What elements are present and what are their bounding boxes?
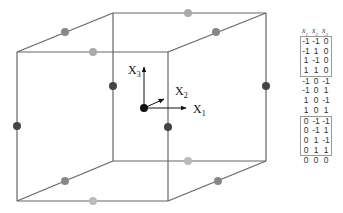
- x3-axis-label: X3: [128, 63, 141, 79]
- table-group-3: 0-1-1 0-11 01-1 011: [300, 116, 332, 157]
- x1-axis-label: X1: [193, 102, 206, 118]
- point-back-right-vertical-mid: [262, 82, 270, 90]
- point-bottom-right-edge-mid: [214, 177, 222, 185]
- design-matrix-table: x1 x2 x3 -1-10 -110 1-10 110 -10-1 -101 …: [300, 26, 343, 166]
- table-row: 000: [301, 156, 343, 166]
- table-row: 110: [301, 66, 331, 76]
- point-front-top-mid: [89, 48, 97, 56]
- table-row: 011: [301, 146, 331, 156]
- box-behnken-cube-diagram: X3 X2 X1: [0, 0, 290, 213]
- point-back-bottom-mid: [184, 157, 192, 165]
- point-front-right-vertical-mid: [164, 123, 172, 131]
- table-group-4: 000: [301, 156, 343, 166]
- x2-axis-label: X2: [175, 84, 188, 100]
- point-front-bottom-mid: [89, 197, 97, 205]
- point-top-right-edge-mid: [212, 28, 220, 36]
- table-row: 101: [301, 106, 343, 116]
- center-point: [140, 104, 148, 112]
- point-back-top-mid: [184, 9, 192, 17]
- header-x1: x1: [300, 26, 310, 36]
- point-back-left-vertical-mid: [109, 82, 117, 90]
- table-header: x1 x2 x3: [300, 26, 343, 36]
- table-group-1: -1-10 -110 1-10 110: [300, 36, 332, 77]
- table-group-2: -10-1 -101 10-1 101: [301, 77, 343, 116]
- point-front-left-vertical-mid: [13, 122, 21, 130]
- point-bottom-left-edge-mid: [61, 177, 69, 185]
- header-x3: x3: [320, 26, 330, 36]
- point-top-left-edge-mid: [61, 28, 69, 36]
- header-x2: x2: [310, 26, 320, 36]
